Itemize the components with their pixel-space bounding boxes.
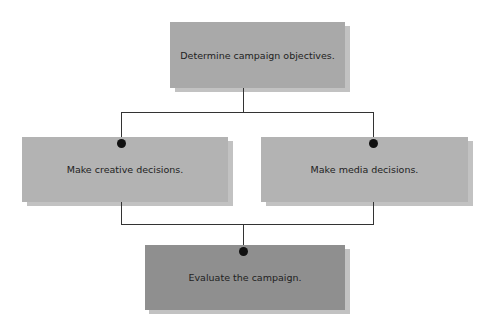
- connector-left-up: [121, 201, 122, 225]
- connector-bottom-horizontal: [121, 224, 374, 225]
- connector-top-vertical: [243, 88, 244, 112]
- creative-label: Make creative decisions.: [67, 164, 184, 175]
- connector-top-horizontal: [121, 112, 374, 113]
- media-box: Make media decisions.: [261, 137, 468, 202]
- media-label: Make media decisions.: [311, 164, 419, 175]
- objectives-box: Determine campaign objectives.: [170, 22, 345, 88]
- media-connector-dot-icon: [369, 139, 378, 148]
- objectives-label: Determine campaign objectives.: [180, 50, 334, 61]
- creative-connector-dot-icon: [117, 139, 126, 148]
- evaluate-connector-dot-icon: [239, 247, 248, 256]
- connector-right-up: [373, 201, 374, 225]
- evaluate-label: Evaluate the campaign.: [189, 272, 302, 283]
- creative-box: Make creative decisions.: [22, 137, 228, 202]
